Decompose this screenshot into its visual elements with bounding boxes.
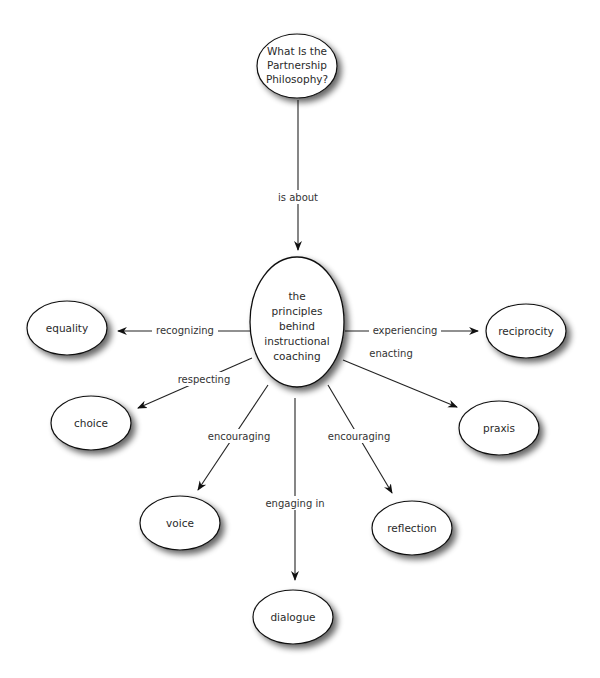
- node-choice: choice: [51, 396, 131, 450]
- node-principles-center: the principles behind instructional coac…: [250, 257, 344, 387]
- edge-label-is-about: is about: [278, 192, 318, 203]
- edge-enacting: [343, 360, 457, 407]
- svg-text:reciprocity: reciprocity: [498, 325, 553, 337]
- svg-text:behind: behind: [279, 320, 315, 332]
- concept-map: is about recognizing respecting encourag…: [0, 0, 600, 678]
- svg-text:voice: voice: [166, 517, 194, 529]
- svg-text:principles: principles: [272, 305, 323, 317]
- node-reciprocity: reciprocity: [486, 304, 566, 358]
- svg-text:What Is the: What Is the: [267, 45, 327, 57]
- edge-label-enacting: enacting: [369, 348, 413, 359]
- edge-label-encouraging-reflection: encouraging: [328, 431, 391, 442]
- node-reflection: reflection: [372, 501, 452, 555]
- node-dialogue: dialogue: [253, 590, 333, 644]
- edge-label-experiencing: experiencing: [373, 325, 438, 336]
- edge-label-engaging-in: engaging in: [265, 498, 324, 509]
- svg-text:praxis: praxis: [483, 422, 515, 434]
- svg-text:Philosophy?: Philosophy?: [266, 73, 328, 85]
- edge-label-recognizing: recognizing: [156, 325, 214, 336]
- svg-text:coaching: coaching: [273, 350, 320, 362]
- node-equality: equality: [27, 301, 107, 355]
- svg-text:choice: choice: [74, 417, 108, 429]
- svg-text:reflection: reflection: [387, 522, 437, 534]
- svg-text:the: the: [288, 290, 305, 302]
- node-praxis: praxis: [459, 401, 539, 455]
- svg-text:Partnership: Partnership: [267, 59, 327, 71]
- node-partnership-philosophy: What Is the Partnership Philosophy?: [257, 34, 337, 98]
- svg-text:instructional: instructional: [264, 335, 329, 347]
- node-voice: voice: [140, 496, 220, 550]
- edge-label-respecting: respecting: [178, 374, 231, 385]
- edge-label-encouraging-voice: encouraging: [208, 431, 271, 442]
- svg-text:dialogue: dialogue: [270, 611, 315, 623]
- svg-text:equality: equality: [46, 322, 88, 334]
